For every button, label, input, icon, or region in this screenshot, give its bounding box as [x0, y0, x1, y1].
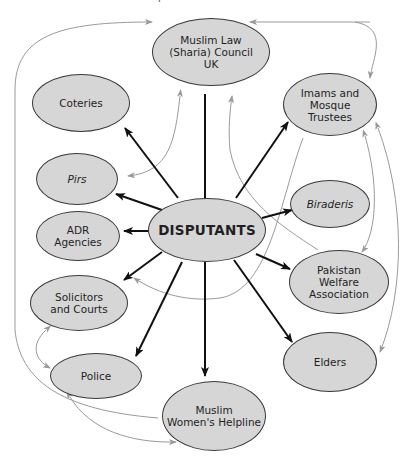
node-solicitors[interactable]: Solicitors and Courts: [30, 275, 128, 331]
node-biraderis[interactable]: Biraderis: [290, 180, 370, 228]
node-adr[interactable]: ADR Agencies: [36, 211, 120, 261]
node-elders[interactable]: Elders: [283, 332, 377, 392]
node-mwh[interactable]: Muslim Women's Helpline: [162, 381, 266, 451]
edge-police-mwh: [70, 397, 176, 442]
edge-disputants-police: [136, 262, 182, 356]
edge-solicitors-police: [36, 330, 50, 368]
node-disputants[interactable]: DISPUTANTS: [148, 198, 266, 262]
node-police[interactable]: Police: [50, 353, 142, 399]
edge-disputants-imams: [236, 122, 288, 198]
node-sharia-council[interactable]: Muslim Law (Sharia) Council UK: [152, 18, 270, 86]
edge-disputants-biraderis: [262, 210, 292, 218]
edge-imams-elders: [378, 128, 399, 352]
node-imams[interactable]: Imams and Mosque Trustees: [283, 73, 377, 136]
edge-sharia-pirs: [128, 96, 180, 176]
edge-disputants-elders: [234, 260, 292, 342]
edge-disputants-solicitors: [124, 252, 162, 280]
edge-disputants-coteries: [125, 128, 178, 198]
node-coteries[interactable]: Coteries: [32, 74, 130, 132]
node-pirs[interactable]: Pirs: [36, 153, 118, 205]
node-pwa[interactable]: Pakistan Welfare Association: [289, 250, 389, 314]
edge-disputants-pirs: [116, 194, 162, 210]
edge-outer-right-loop: [355, 22, 376, 78]
